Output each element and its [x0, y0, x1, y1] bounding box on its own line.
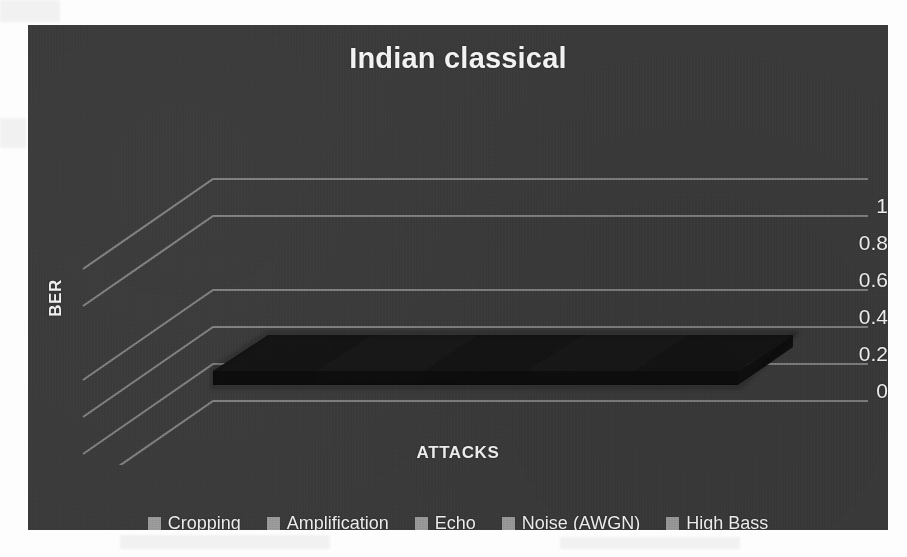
page-background: Indian classical [0, 0, 907, 557]
plot-area: 1 0.8 0.6 0.4 0.2 0 BER ATTACKS [28, 25, 888, 465]
gridlines-upper [83, 179, 868, 306]
y-axis-label: BER [46, 263, 66, 333]
chart-canvas: Indian classical [28, 25, 888, 530]
legend-item-high-bass[interactable]: High Bass [666, 513, 768, 530]
scan-artifact [120, 535, 330, 549]
legend-swatch-icon [267, 517, 280, 530]
scan-artifact [0, 0, 60, 22]
y-tick-0.4: 0.4 [818, 306, 888, 327]
legend-swatch-icon [666, 517, 679, 530]
legend-swatch-icon [415, 517, 428, 530]
y-tick-0.6: 0.6 [818, 269, 888, 290]
legend-label: High Bass [686, 513, 768, 530]
x-axis-label: ATTACKS [28, 443, 888, 463]
legend-label: Noise (AWGN) [522, 513, 640, 530]
legend-label: Cropping [168, 513, 241, 530]
y-tick-0.2: 0.2 [818, 343, 888, 364]
y-tick-1: 1 [818, 195, 888, 216]
legend-label: Echo [435, 513, 476, 530]
y-tick-0.8: 0.8 [818, 232, 888, 253]
legend-item-amplification[interactable]: Amplification [267, 513, 389, 530]
plot-graphics [28, 25, 888, 465]
chart-legend: Cropping Amplification Echo Noise (AWGN)… [28, 513, 888, 530]
bar-group [213, 333, 796, 387]
scan-artifact [560, 537, 740, 549]
gridline-top-b [83, 216, 868, 306]
legend-swatch-icon [502, 517, 515, 530]
legend-item-noise-awgn[interactable]: Noise (AWGN) [502, 513, 640, 530]
legend-label: Amplification [287, 513, 389, 530]
legend-swatch-icon [148, 517, 161, 530]
legend-item-cropping[interactable]: Cropping [148, 513, 241, 530]
scan-artifact [0, 118, 26, 148]
legend-item-echo[interactable]: Echo [415, 513, 476, 530]
y-tick-0: 0 [818, 380, 888, 401]
